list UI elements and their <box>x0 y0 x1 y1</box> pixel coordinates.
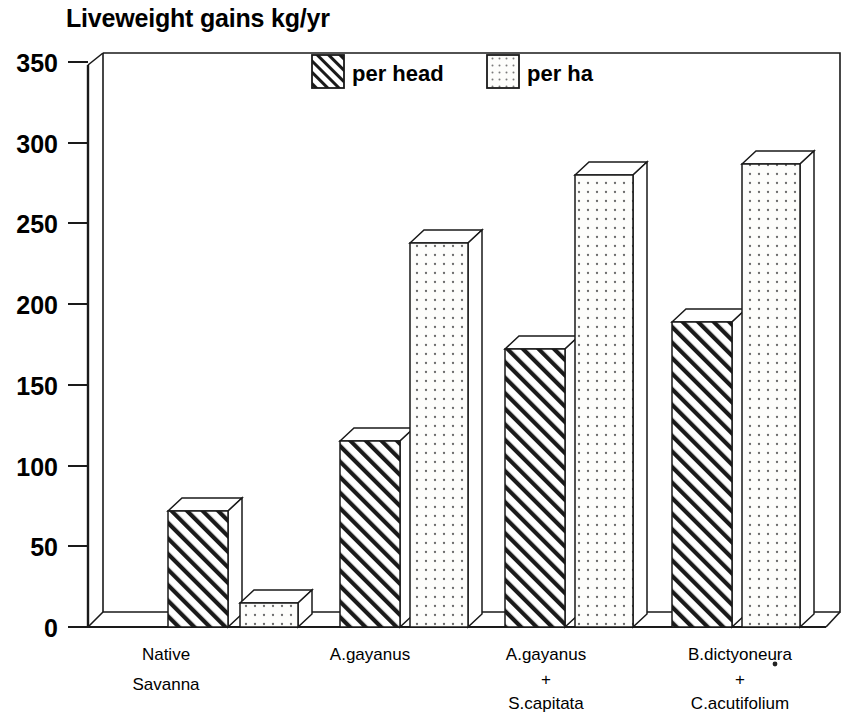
bar-per-ha-4 <box>742 151 814 627</box>
bar-chart: Liveweight gains kg/yr per head per ha 3… <box>0 0 851 715</box>
x-label-3-line1: A.gayanus <box>506 645 586 664</box>
y-tick-label-100: 100 <box>16 453 58 481</box>
chart-title: Liveweight gains kg/yr <box>66 4 330 32</box>
chart-container: Liveweight gains kg/yr per head per ha 3… <box>0 0 851 715</box>
hatch-swatch <box>312 55 344 88</box>
x-label-2-line1: A.gayanus <box>330 645 410 664</box>
dot-swatch <box>487 55 519 88</box>
x-label-3-line2: + <box>541 670 551 689</box>
bar-per-head-2 <box>340 428 414 627</box>
bar-per-ha-3 <box>575 162 647 627</box>
bar-per-ha-1 <box>240 590 312 627</box>
x-label-4-line3: C.acutifolium <box>691 694 789 713</box>
x-label-3-line3: S.capitata <box>508 694 584 713</box>
y-tick-label-50: 50 <box>30 533 58 561</box>
bar-per-ha-2 <box>410 230 482 627</box>
y-tick-label-200: 200 <box>16 291 58 319</box>
x-label-4-line2: + <box>735 670 745 689</box>
y-tick-label-300: 300 <box>16 130 58 158</box>
bar-per-head-4 <box>672 309 746 627</box>
x-label-1-line2: Savanna <box>132 675 200 694</box>
y-tick-label-350: 350 <box>16 49 58 77</box>
y-tick-label-0: 0 <box>44 614 58 642</box>
bar-per-head-1 <box>168 498 242 627</box>
x-label-1-line1: Native <box>142 645 190 664</box>
legend-label-per-head: per head <box>352 61 444 86</box>
legend-label-per-ha: per ha <box>527 61 594 86</box>
x-label-4-line1: B.dictyoneura <box>688 645 792 664</box>
bar-per-head-3 <box>505 336 579 627</box>
y-tick-label-250: 250 <box>16 210 58 238</box>
y-tick-label-150: 150 <box>16 372 58 400</box>
y-axis-ticks <box>68 62 88 627</box>
